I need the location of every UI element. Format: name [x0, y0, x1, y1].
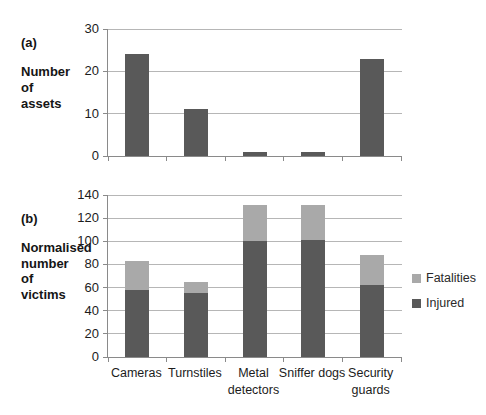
b-ytick-mark-120: [103, 218, 108, 219]
b-bar-turnstiles-injured: [184, 293, 208, 357]
b-bar-security-guards-fatalities: [360, 255, 384, 285]
legend-item-injured: Injured: [412, 296, 476, 310]
a-ytick-label-0: 0: [59, 148, 99, 164]
b-ytick-mark-140: [103, 195, 108, 196]
b-ytick-label-100: 100: [59, 233, 99, 249]
a-ytick-label-30: 30: [59, 21, 99, 37]
a-ytick-label-10: 10: [59, 106, 99, 122]
xlabel-line: detectors: [215, 382, 292, 399]
a-xtick-5: [401, 156, 402, 161]
b-ytick-label-60: 60: [59, 280, 99, 296]
a-gridline-20: [108, 71, 402, 72]
legend-item-fatalities: Fatalities: [412, 271, 476, 285]
b-ytick-mark-80: [103, 264, 108, 265]
b-bar-metal-detectors-fatalities: [243, 205, 267, 241]
b-ytick-mark-60: [103, 287, 108, 288]
xlabel-security-guards: Securityguards: [332, 365, 409, 399]
legend-swatch-injured: [412, 299, 421, 308]
a-bar-cameras: [125, 54, 149, 156]
security-measures-figure: (a) Numberofassets (b) Normalisednumbero…: [0, 0, 486, 415]
b-ytick-mark-100: [103, 241, 108, 242]
b-ytick-label-80: 80: [59, 256, 99, 272]
b-ytick-label-120: 120: [59, 210, 99, 226]
xlabel-line: guards: [332, 382, 409, 399]
panel-a-ylabel-line: of: [21, 80, 70, 96]
a-ytick-mark-30: [103, 29, 108, 30]
b-bar-turnstiles-fatalities: [184, 282, 208, 294]
a-gridline-30: [108, 29, 402, 30]
a-gridline-10: [108, 113, 402, 114]
legend: FatalitiesInjured: [412, 271, 476, 310]
a-bar-security-guards: [360, 59, 384, 156]
b-bar-security-guards-injured: [360, 285, 384, 357]
a-bar-metal-detectors: [243, 152, 267, 156]
b-xtick-0: [108, 357, 109, 362]
b-bar-sniffer-dogs-injured: [301, 240, 325, 357]
b-bar-cameras-injured: [125, 290, 149, 357]
a-xtick-4: [342, 156, 343, 161]
a-xtick-2: [225, 156, 226, 161]
xlabel-line: Security: [332, 365, 409, 382]
a-xtick-3: [283, 156, 284, 161]
b-ytick-mark-40: [103, 310, 108, 311]
b-ytick-label-140: 140: [59, 187, 99, 203]
b-ytick-mark-20: [103, 333, 108, 334]
b-xtick-4: [342, 357, 343, 362]
a-xtick-0: [108, 156, 109, 161]
b-xtick-2: [225, 357, 226, 362]
a-xtick-1: [166, 156, 167, 161]
b-ytick-label-40: 40: [59, 303, 99, 319]
b-ytick-label-0: 0: [59, 349, 99, 365]
b-bar-cameras-fatalities: [125, 261, 149, 290]
a-bar-turnstiles: [184, 109, 208, 156]
legend-label-fatalities: Fatalities: [426, 271, 476, 285]
b-xtick-5: [401, 357, 402, 362]
a-ytick-mark-20: [103, 71, 108, 72]
b-bar-sniffer-dogs-fatalities: [301, 205, 325, 240]
b-gridline-140: [108, 195, 402, 196]
a-bar-sniffer-dogs: [301, 152, 325, 156]
b-ytick-label-20: 20: [59, 326, 99, 342]
panel-b-plot: [107, 195, 401, 358]
b-xtick-3: [283, 357, 284, 362]
a-ytick-label-20: 20: [59, 63, 99, 79]
legend-swatch-fatalities: [412, 274, 421, 283]
legend-label-injured: Injured: [426, 296, 464, 310]
a-ytick-mark-10: [103, 113, 108, 114]
panel-b-label: (b): [21, 211, 38, 226]
panel-a-label: (a): [21, 35, 37, 50]
b-bar-metal-detectors-injured: [243, 241, 267, 357]
panel-a-plot: [107, 29, 401, 157]
b-xtick-1: [166, 357, 167, 362]
